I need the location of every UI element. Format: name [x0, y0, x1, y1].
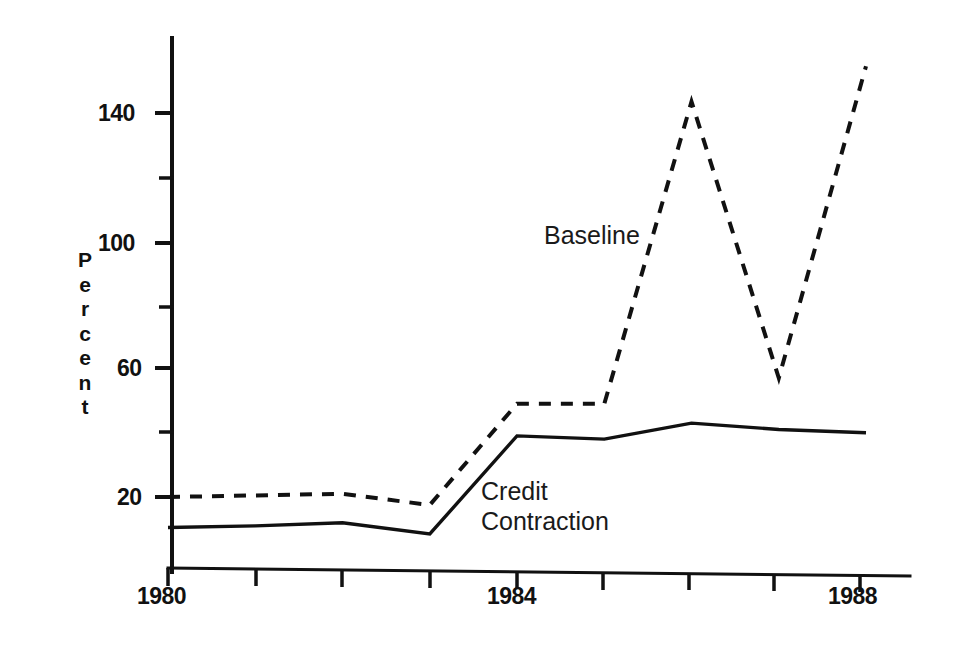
y-axis-title-letter: e: [72, 273, 98, 298]
x-tick-label-1984: 1984: [487, 583, 536, 610]
y-tick-label-140: 140: [98, 100, 135, 127]
x-tick-label-1980: 1980: [137, 583, 186, 610]
x-axis-spine: [168, 568, 910, 576]
y-tick-label-60: 60: [117, 355, 142, 382]
y-axis-title-letter: P: [72, 248, 98, 273]
y-axis-title-letter: c: [72, 322, 98, 347]
series-label-credit-line2: Contraction: [481, 506, 609, 536]
series-line-baseline: [168, 66, 866, 505]
chart-figure: P e r c e n t 140 100 60 20 1980 1984 19…: [0, 0, 954, 652]
series-label-baseline: Baseline: [544, 220, 640, 250]
y-axis-title-letter: t: [72, 395, 98, 420]
series-label-credit-line1: Credit: [481, 476, 609, 506]
y-axis-title-letter: n: [72, 371, 98, 396]
y-tick-label-100: 100: [98, 230, 135, 257]
y-tick-label-20: 20: [117, 484, 142, 511]
series-label-credit-contraction: Credit Contraction: [481, 476, 609, 536]
y-axis-title-letter: e: [72, 346, 98, 371]
chart-plot-area: [0, 0, 954, 652]
y-axis-title: P e r c e n t: [72, 248, 98, 420]
x-tick-label-1988: 1988: [828, 583, 877, 610]
y-axis-title-letter: r: [72, 297, 98, 322]
